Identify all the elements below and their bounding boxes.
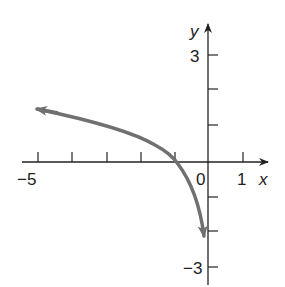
x-label-one: 1 bbox=[237, 170, 246, 189]
y-axis-label: y bbox=[189, 22, 200, 41]
y-label-minus3: −3 bbox=[183, 259, 202, 278]
graph: −5 0 1 x y 3 −3 bbox=[0, 0, 285, 287]
x-ticks bbox=[38, 152, 243, 162]
x-label-zero: 0 bbox=[196, 170, 205, 189]
y-label-three: 3 bbox=[190, 47, 199, 66]
x-label-minus5: −5 bbox=[17, 170, 36, 189]
y-ticks bbox=[208, 55, 218, 267]
function-curve bbox=[37, 109, 204, 236]
x-axis-label: x bbox=[258, 170, 268, 189]
